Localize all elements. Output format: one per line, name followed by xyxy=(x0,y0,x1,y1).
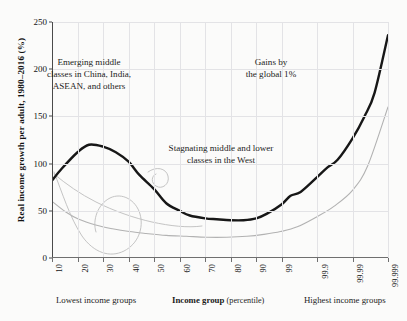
x-tick-mark xyxy=(231,258,232,262)
x-tick-label: 80 xyxy=(234,264,243,272)
x-tick-label: 90 xyxy=(259,264,268,272)
x-tick-mark xyxy=(353,258,354,262)
y-axis-title: Real income growth per adult, 1980–2016 … xyxy=(16,5,26,255)
y-tick-label: 0 xyxy=(43,253,48,263)
x-tick-mark xyxy=(256,258,257,262)
gridline-vertical xyxy=(388,22,389,258)
annotation-gains-global-one-percent: Gains by the global 1% xyxy=(222,56,320,80)
annotation-stagnating-classes: Stagnating middle and lower classes in t… xyxy=(146,142,296,166)
x-tick-label: 99.9 xyxy=(321,264,330,279)
y-tick-label: 150 xyxy=(34,111,48,121)
gridline-vertical xyxy=(180,22,181,258)
x-tick-mark xyxy=(78,258,79,262)
x-axis-line xyxy=(52,257,388,258)
x-tick-mark xyxy=(205,258,206,262)
x-tick-label: 99 xyxy=(285,264,294,272)
y-tick-label: 250 xyxy=(34,17,48,27)
gridline-vertical xyxy=(353,22,354,258)
x-tick-label: 99.999 xyxy=(391,264,400,287)
chart-figure: Real income growth per adult, 1980–2016 … xyxy=(0,0,407,321)
x-tick-mark xyxy=(154,258,155,262)
x-tick-label: 70 xyxy=(208,264,217,272)
x-tick-label: 40 xyxy=(132,264,141,272)
annotation-emerging-middle-classes: Emerging middle classes in China, India,… xyxy=(24,56,154,92)
x-tick-mark xyxy=(103,258,104,262)
highest-income-groups-label: Highest income groups xyxy=(304,295,386,305)
x-axis-title-bold: Income group xyxy=(172,295,224,305)
x-tick-mark xyxy=(388,258,389,262)
x-axis-title: Income group (percentile) xyxy=(172,295,264,305)
x-tick-mark xyxy=(129,258,130,262)
y-tick-label: 100 xyxy=(34,159,48,169)
x-tick-mark xyxy=(180,258,181,262)
y-tick-label: 50 xyxy=(38,206,47,216)
gridline-vertical xyxy=(154,22,155,258)
x-tick-mark xyxy=(317,258,318,262)
x-axis-title-unit: (percentile) xyxy=(227,296,265,305)
x-tick-label: 20 xyxy=(81,264,90,272)
x-tick-label: 10 xyxy=(55,264,64,272)
gridline-vertical xyxy=(205,22,206,258)
x-tick-label: 99.99 xyxy=(356,264,365,283)
x-tick-label: 50 xyxy=(157,264,166,272)
lowest-income-groups-label: Lowest income groups xyxy=(56,295,136,305)
x-tick-label: 60 xyxy=(183,264,192,272)
x-tick-label: 30 xyxy=(106,264,115,272)
x-tick-mark xyxy=(282,258,283,262)
x-tick-mark xyxy=(52,258,53,262)
